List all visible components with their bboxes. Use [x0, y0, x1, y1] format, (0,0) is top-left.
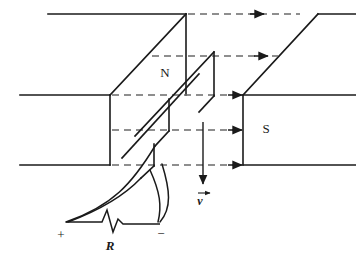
- physics-diagram-figure: v N S + − R: [0, 0, 356, 263]
- resistor-zigzag-path: [66, 210, 160, 232]
- s-pole-top-diagonal-edge: [243, 14, 318, 95]
- n-pole-top-diagonal-edge: [110, 14, 186, 95]
- negative-terminal-label: −: [157, 226, 164, 241]
- bar-top-end-cap: [199, 96, 214, 112]
- resistor-symbol: [66, 210, 160, 232]
- positive-terminal-label: +: [57, 227, 64, 242]
- circuit-lead-right-inner: [150, 170, 160, 222]
- diagram-canvas: v N S + − R: [0, 0, 356, 263]
- circuit-lead-right-outer: [160, 164, 169, 222]
- external-circuit-leads: [66, 146, 169, 222]
- bar-notch-upper-cap: [155, 131, 169, 146]
- bar-upper-edge: [135, 52, 214, 136]
- north-pole-label: N: [160, 65, 170, 80]
- south-pole-label: S: [262, 121, 269, 136]
- velocity-label-group: v: [197, 193, 210, 208]
- resistor-label: R: [105, 238, 115, 253]
- velocity-label: v: [197, 194, 203, 208]
- s-pole-block: [243, 14, 356, 165]
- n-pole-block: [20, 14, 186, 165]
- bar-lower-edge: [122, 74, 199, 158]
- magnetic-field-lines: [112, 14, 300, 165]
